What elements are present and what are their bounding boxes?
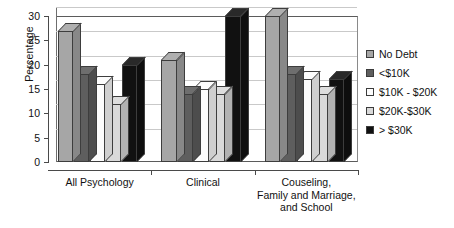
bar-side-face [328,86,336,162]
legend-swatch-icon [366,50,374,58]
legend-label: <$10K [379,67,410,79]
y-tick-5: 5 [14,133,40,143]
plot-area [48,16,358,171]
y-tick-10: 10 [14,108,40,118]
x-label-3: Couseling,Family and Marriage,and School [233,176,380,214]
bar-front-face [265,16,281,162]
bar-side-face [312,71,320,162]
y-tickmark-20 [44,65,49,66]
y-tickmark-30 [44,16,49,17]
x-label-line: Couseling, [233,176,380,189]
y-tickmark-25 [44,40,49,41]
bar-side-face [177,52,185,162]
bar-no-debt-1 [58,31,74,162]
bar-side-face [344,71,352,162]
bar-front-face [161,60,177,162]
bar-side-face [137,56,145,162]
bar-side-face [296,66,304,162]
y-tickmark-0 [44,162,49,163]
y-tickmark-15 [44,89,49,90]
bar-side-face [209,81,217,162]
y-tickmark-10 [44,113,49,114]
chart-legend: No Debt<$10K$10K - $20K$20K-$30K> $30K [366,44,454,139]
legend-label: > $30K [379,124,413,136]
y-tick-30: 30 [14,11,40,21]
legend-label: No Debt [379,48,418,60]
y-tick-15: 15 [14,84,40,94]
bar-side-face [280,8,288,162]
legend-swatch-icon [366,107,374,115]
y-tickmark-5 [44,138,49,139]
x-tickmark-2 [255,170,256,175]
legend-label: $10K - $20K [379,86,437,98]
bar-side-face [225,86,233,162]
legend-item-3[interactable]: $10K - $20K [366,82,454,101]
gridline-30 [56,7,357,8]
bar-side-face [121,95,129,162]
x-label-line: Family and Marriage, [233,189,380,202]
bar-side-face [89,66,97,162]
x-tickmark-3 [358,170,359,175]
legend-item-4[interactable]: $20K-$30K [366,101,454,120]
x-axis-category-labels: All PsychologyClinicalCouseling,Family a… [48,176,358,228]
y-axis-tick-labels: 051015202530 [14,0,40,228]
legend-item-2[interactable]: <$10K [366,63,454,82]
x-tickmark-1 [151,170,152,175]
legend-label: $20K-$30K [379,105,432,117]
legend-swatch-icon [366,69,374,77]
bar-side-face [73,22,81,162]
x-label-line: and School [233,201,380,214]
bar-no-debt-3 [265,16,281,162]
legend-item-1[interactable]: No Debt [366,44,454,63]
y-tick-20: 20 [14,60,40,70]
y-tick-25: 25 [14,35,40,45]
bar-no-debt-2 [161,60,177,162]
gridline-20 [56,56,357,57]
bar-series-container [48,16,358,171]
bar-chart: Percentage 051015202530 All PsychologyCl… [0,0,454,228]
bar-side-face [193,86,201,162]
legend-swatch-icon [366,126,374,134]
y-tick-0: 0 [14,157,40,167]
legend-item-5[interactable]: > $30K [366,120,454,139]
bar-side-face [241,8,249,162]
legend-swatch-icon [366,88,374,96]
plot-depth-top [48,7,56,16]
bar-front-face [58,31,74,162]
gridline-25 [56,31,357,32]
bar-side-face [105,76,113,162]
